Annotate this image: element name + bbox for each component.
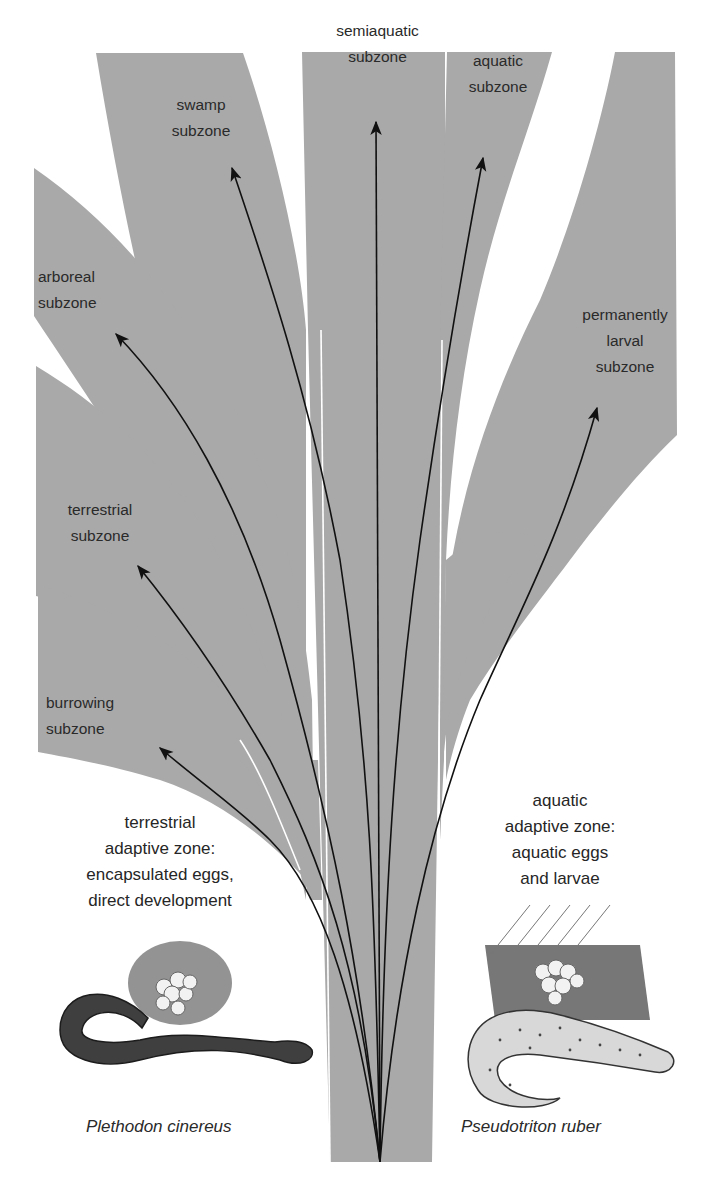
salamander-with-eggs-icon [60, 941, 312, 1064]
species-name-left: Plethodon cinereus [86, 1117, 232, 1137]
label-semiaquatic-subzone: semiaquatic subzone [310, 18, 445, 70]
label-aquatic-subzone: aquatic subzone [448, 48, 548, 100]
label-permanently-larval-subzone: permanently larval subzone [555, 302, 695, 380]
label-swamp-subzone: swamp subzone [146, 92, 256, 144]
label-arboreal-subzone: arboreal subzone [38, 264, 128, 316]
spotted-salamander-with-eggs-icon [468, 905, 674, 1107]
species-name-right: Pseudotriton ruber [461, 1117, 601, 1137]
label-terrestrial-subzone: terrestrial subzone [50, 497, 150, 549]
adaptive-radiation-diagram [0, 0, 721, 1200]
label-burrowing-subzone: burrowing subzone [46, 690, 136, 742]
label-terrestrial-adaptive-zone: terrestrial adaptive zone: encapsulated … [60, 810, 260, 914]
label-aquatic-adaptive-zone: aquatic adaptive zone: aquatic eggs and … [480, 788, 640, 892]
